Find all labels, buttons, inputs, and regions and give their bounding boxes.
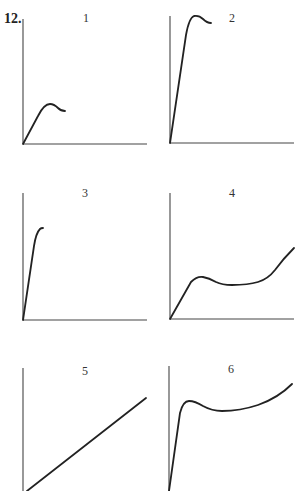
curve [23,228,43,320]
chart-label: 4 [229,186,235,200]
chart-label: 1 [83,11,89,25]
chart-2: 2 [170,11,294,143]
curve [23,104,65,144]
curve [27,398,146,491]
curve [170,16,211,143]
chart-5: 5 [23,364,146,491]
chart-3: 3 [23,186,147,320]
curve [170,248,294,319]
chart-label: 3 [82,186,88,200]
chart-label: 5 [82,364,88,378]
chart-label: 6 [228,362,234,376]
curve [169,384,292,491]
chart-4: 4 [170,186,294,319]
chart-1: 1 [23,11,147,144]
stress-strain-charts: 1 2 3 4 5 6 [0,0,297,491]
chart-6: 6 [169,362,292,491]
chart-label: 2 [229,11,235,25]
